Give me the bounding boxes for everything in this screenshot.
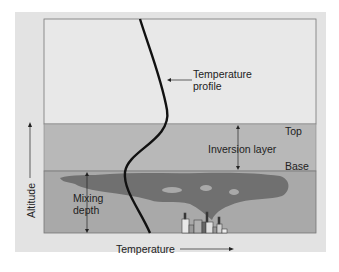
x-axis-label: Temperature bbox=[116, 243, 175, 255]
smoke-gap bbox=[200, 185, 212, 191]
mixing-depth-label: Mixing bbox=[73, 192, 103, 204]
temperature-profile-label: Temperature bbox=[193, 68, 252, 80]
smoke-gap bbox=[229, 189, 239, 195]
mixing-depth-label-2: depth bbox=[73, 204, 99, 216]
base-label: Base bbox=[285, 160, 309, 172]
y-axis-label: Altitude bbox=[25, 183, 37, 218]
altitude-arrowhead bbox=[28, 122, 32, 127]
temperature-arrowhead bbox=[229, 247, 234, 251]
smoke-gap bbox=[162, 187, 182, 193]
upper-air-region bbox=[44, 19, 316, 124]
inversion-layer-label: Inversion layer bbox=[208, 143, 276, 155]
temperature-profile-label-2: profile bbox=[193, 80, 222, 92]
top-label: Top bbox=[285, 125, 302, 137]
